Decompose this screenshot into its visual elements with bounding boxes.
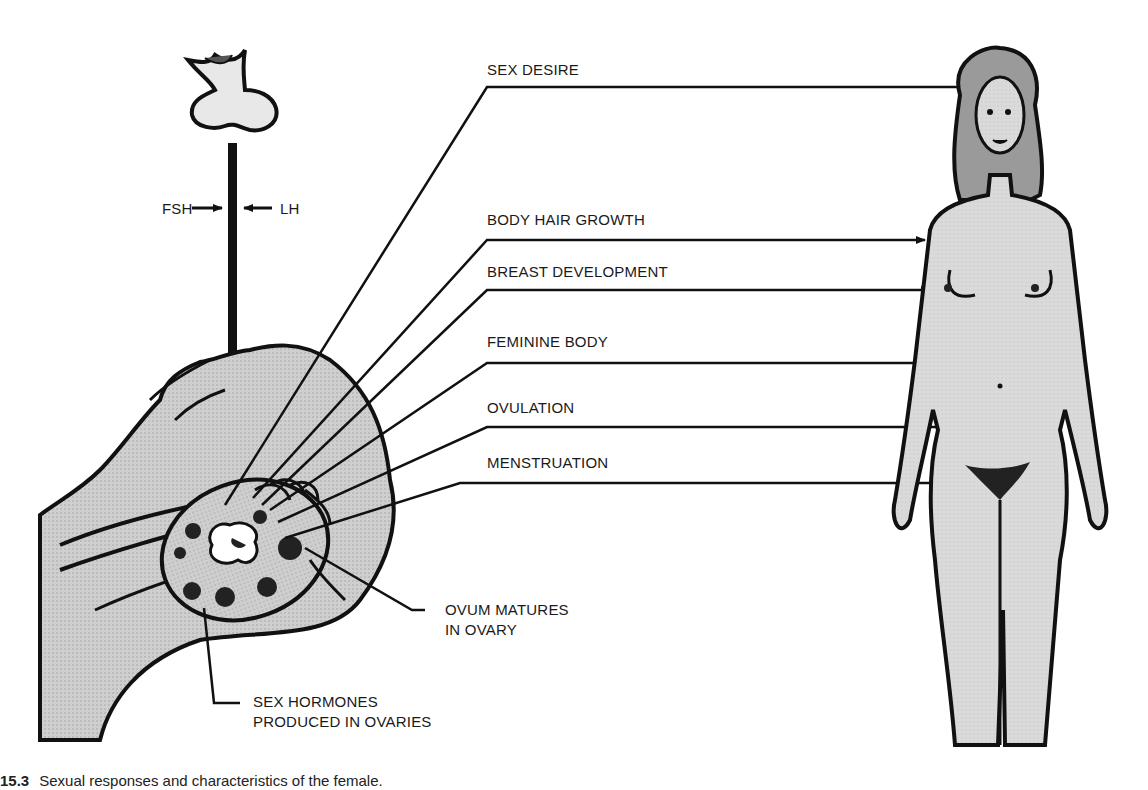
effect-label-breast: BREAST DEVELOPMENT [487, 262, 668, 282]
callout-sex-hormones: SEX HORMONES PRODUCED IN OVARIES [253, 692, 432, 732]
callout-hormones-line2: PRODUCED IN OVARIES [253, 712, 432, 732]
callout-ovum-line2: IN OVARY [445, 620, 569, 640]
lh-label: LH [280, 199, 300, 219]
effect-label-ovulation: OVULATION [487, 398, 574, 418]
effect-label-menstruation: MENSTRUATION [487, 453, 608, 473]
female-body-illustration [894, 48, 1107, 745]
effect-label-feminine-body: FEMININE BODY [487, 332, 608, 352]
pituitary-gland-icon [188, 50, 277, 130]
effect-label-body-hair: BODY HAIR GROWTH [487, 210, 645, 230]
callout-ovum-line1: OVUM MATURES [445, 600, 569, 620]
effect-label-sex-desire: SEX DESIRE [487, 60, 579, 80]
callout-hormones-line1: SEX HORMONES [253, 692, 432, 712]
figure-caption: 15.3Sexual responses and characteristics… [0, 772, 383, 789]
fsh-label: FSH [162, 199, 193, 219]
callout-ovum: OVUM MATURES IN OVARY [445, 600, 569, 640]
figure-number: 15.3 [0, 772, 29, 789]
figure-caption-text: Sexual responses and characteristics of … [39, 772, 383, 789]
